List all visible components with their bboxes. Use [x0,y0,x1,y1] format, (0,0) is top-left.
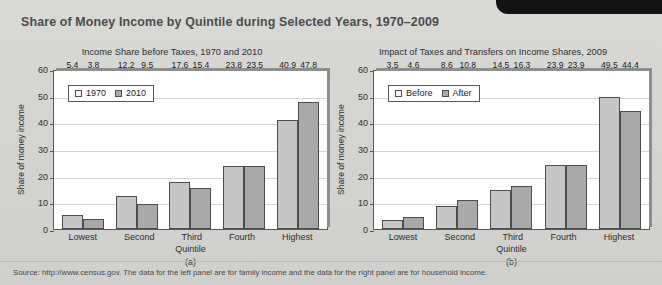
legend-label-series2: 2010 [126,88,146,98]
bar-column: 16.3 [511,71,532,229]
legend-item-series1: Before [395,88,433,98]
bar-column: 49.5 [599,71,620,229]
bar[interactable]: 23.8 [223,166,244,229]
y-tick-label: 40 [38,118,48,128]
bar[interactable]: 17.6 [169,182,190,229]
bar-group: 17.615.4 [169,71,211,229]
bar-column: 23.5 [244,71,265,229]
exhibit-figure: EXHIBIT Share of Money Income by Quintil… [0,0,662,285]
panel-b-x-axis-label: Quintile [373,244,650,254]
bar-column: 40.9 [277,71,298,229]
bar-value-label: 3.8 [87,60,99,70]
bar[interactable]: 9.5 [137,204,158,229]
y-tick-label: 0 [43,225,48,235]
bar[interactable]: 16.3 [511,186,532,229]
legend-label-series1: Before [406,88,433,98]
x-tick-label: Second [445,232,476,242]
bar[interactable]: 14.5 [490,190,511,229]
panel-b-y-ticks: 6050403020100 [346,70,370,230]
bar[interactable]: 23.9 [545,165,566,229]
x-tick-label: Lowest [68,232,97,242]
bar-group: 23.823.5 [223,71,265,229]
bar[interactable]: 47.8 [298,102,319,229]
x-tick-label: Lowest [389,232,418,242]
panel-b-title: Impact of Taxes and Transfers on Income … [332,47,654,57]
bar-value-label: 12.2 [118,60,135,70]
panel-b-plot-area: Before After 3.54.68.610.814.516.323.923… [373,70,650,230]
panel-b-letter: (b) [373,257,650,267]
y-tick-label: 20 [358,172,368,182]
y-tick-label: 50 [38,92,48,102]
y-tick-label: 10 [358,198,368,208]
source-divider [0,261,662,262]
legend-item-series1: 1970 [75,88,106,98]
x-tick-label: Third [503,232,524,242]
bar[interactable]: 12.2 [116,196,137,229]
bar[interactable]: 40.9 [277,120,298,229]
y-tick-label: 50 [358,92,368,102]
bar-column: 17.6 [169,71,190,229]
bar-value-label: 8.6 [441,60,453,70]
y-tick-mark [370,124,374,125]
legend-swatch-icon-series1 [395,90,402,97]
bar-value-label: 23.9 [547,60,564,70]
y-tick-mark [50,178,54,179]
bar[interactable]: 49.5 [599,97,620,229]
legend-item-series2: 2010 [115,88,146,98]
bar[interactable]: 5.4 [62,215,83,229]
bar-value-label: 47.8 [300,60,317,70]
y-tick-mark [50,124,54,125]
bar-group: 49.544.4 [599,71,641,229]
bar-value-label: 23.8 [225,60,242,70]
bar-value-label: 23.5 [246,60,263,70]
bar-column: 23.9 [545,71,566,229]
x-tick-label: Second [124,232,155,242]
bar-value-label: 9.5 [141,60,153,70]
y-tick-mark [50,71,54,72]
bar[interactable]: 44.4 [620,111,641,229]
bar-value-label: 17.6 [172,60,189,70]
bar[interactable]: 15.4 [190,188,211,229]
bar-column: 14.5 [490,71,511,229]
bar-value-label: 49.5 [601,60,618,70]
panel-b-x-tick-labels: LowestSecondThirdFourthHighest [373,232,650,242]
bar[interactable]: 4.6 [403,217,424,229]
source-note: Source: http://www.census.gov. The data … [13,268,487,277]
bar[interactable]: 23.5 [244,166,265,229]
bar-column: 15.4 [190,71,211,229]
x-tick-label: Fourth [229,232,255,242]
x-tick-label: Third [181,232,202,242]
bar-column: 23.8 [223,71,244,229]
exhibit-tab: EXHIBIT [496,0,662,14]
bar-column: 23.9 [566,71,587,229]
bar-column: 47.8 [298,71,319,229]
bar-group: 40.947.8 [277,71,319,229]
legend-swatch-icon-series2 [442,90,449,97]
y-tick-mark [370,98,374,99]
bar-value-label: 44.4 [622,60,639,70]
y-tick-label: 10 [38,198,48,208]
bar[interactable]: 23.9 [566,165,587,229]
bar[interactable]: 10.8 [457,200,478,229]
y-tick-mark [370,151,374,152]
y-tick-label: 30 [358,145,368,155]
panel-a-title: Income Share before Taxes, 1970 and 2010 [12,47,332,57]
legend-item-series2: After [442,88,472,98]
legend-swatch-icon-series1 [75,90,82,97]
chart-panel-b: Impact of Taxes and Transfers on Income … [332,47,654,262]
y-tick-label: 40 [358,118,368,128]
legend-label-series1: 1970 [86,88,106,98]
x-tick-label: Fourth [550,232,576,242]
x-tick-label: Highest [604,232,635,242]
bar[interactable]: 8.6 [436,206,457,229]
panel-a-letter: (a) [53,257,328,267]
bar-value-label: 40.9 [279,60,296,70]
y-tick-mark [370,204,374,205]
bar[interactable]: 3.8 [83,219,104,229]
bar-group: 14.516.3 [490,71,532,229]
y-tick-mark [370,178,374,179]
panel-b-legend: Before After [388,85,480,102]
bar[interactable]: 3.5 [382,220,403,229]
y-tick-mark [370,71,374,72]
bar-group: 23.923.9 [545,71,587,229]
